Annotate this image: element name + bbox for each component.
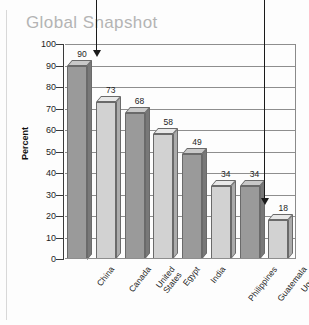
- bar: [268, 220, 288, 259]
- y-axis-tick-label: 50: [26, 147, 56, 157]
- bar: [240, 186, 260, 259]
- category-label: United States: [154, 265, 183, 295]
- page-left-edge: [6, 10, 7, 320]
- bar-value-label: 90: [77, 49, 86, 59]
- category-label: China: [96, 265, 117, 288]
- y-axis-tick: [56, 238, 64, 239]
- plot-right-border: [295, 44, 296, 259]
- bar-side-face: [116, 96, 121, 259]
- y-axis-tick: [56, 173, 64, 174]
- bar-side-face: [87, 60, 92, 259]
- bar-front-face: [211, 186, 231, 259]
- bar: [211, 186, 231, 259]
- y-axis-tick: [56, 44, 64, 45]
- bar: [67, 66, 87, 260]
- bar-value-label: 73: [106, 85, 115, 95]
- category-label: Philippines: [247, 265, 279, 303]
- y-axis-tick-label: 40: [26, 168, 56, 178]
- bar-front-face: [67, 66, 87, 260]
- y-axis-tick-label: 10: [26, 233, 56, 243]
- chart-page: Global Snapshot Percent 1009080706050403…: [0, 0, 309, 325]
- y-axis-tick-label: 30: [26, 190, 56, 200]
- y-axis-tick-label: 90: [26, 61, 56, 71]
- bar-front-face: [182, 154, 202, 259]
- y-axis-tick: [56, 259, 64, 260]
- bar-front-face: [96, 102, 116, 259]
- y-axis-tick: [56, 216, 64, 217]
- bar-front-face: [240, 186, 260, 259]
- gridline: [65, 44, 295, 45]
- y-axis-tick-label: 100: [26, 39, 56, 49]
- bar-side-face: [231, 180, 236, 259]
- bar-value-label: 34: [221, 169, 230, 179]
- gridline: [65, 87, 295, 88]
- bar-value-label: 18: [279, 203, 288, 213]
- y-axis-tick: [56, 109, 64, 110]
- bar-side-face: [173, 128, 178, 259]
- bar-front-face: [125, 113, 145, 259]
- baseline: [65, 258, 295, 259]
- bar-side-face: [202, 148, 207, 259]
- y-axis-tick: [56, 130, 64, 131]
- y-axis-tick: [56, 195, 64, 196]
- bar: [125, 113, 145, 259]
- bar-front-face: [153, 134, 173, 259]
- bar-value-label: 58: [164, 117, 173, 127]
- y-axis-tick-label: 70: [26, 104, 56, 114]
- bar-front-face: [268, 220, 288, 259]
- bar-value-label: 68: [135, 96, 144, 106]
- category-label: India: [209, 265, 227, 285]
- bar: [153, 134, 173, 259]
- category-label: Egypt: [182, 265, 202, 288]
- bar: [96, 102, 116, 259]
- gridline: [65, 66, 295, 67]
- bar-side-face: [288, 214, 293, 259]
- y-axis-tick: [56, 66, 64, 67]
- y-axis-tick: [56, 152, 64, 153]
- plot-area: [65, 44, 295, 259]
- y-axis-tick-label: 60: [26, 125, 56, 135]
- bar-value-label: 34: [250, 169, 259, 179]
- bar-side-face: [145, 107, 150, 259]
- page-title: Global Snapshot: [26, 13, 158, 33]
- category-label: Canada: [127, 265, 152, 294]
- bar-value-label: 49: [192, 137, 201, 147]
- y-axis-tick-label: 0: [26, 254, 56, 264]
- y-axis-tick-label: 80: [26, 82, 56, 92]
- y-axis-tick: [56, 87, 64, 88]
- y-axis-tick-label: 20: [26, 211, 56, 221]
- bar: [182, 154, 202, 259]
